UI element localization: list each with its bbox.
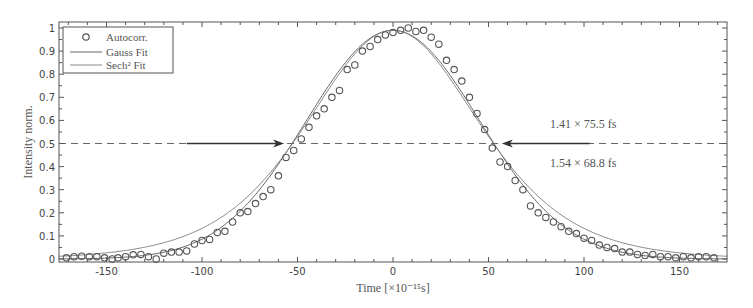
data-point: [459, 78, 465, 84]
data-point: [543, 214, 549, 220]
data-point: [329, 94, 335, 100]
data-point: [291, 147, 297, 153]
x-tick-label: -150: [95, 266, 118, 277]
y-tick-label: 0.1: [39, 231, 55, 242]
data-point: [283, 154, 289, 160]
data-point: [443, 57, 449, 63]
y-tick-label: 0.8: [39, 69, 55, 80]
data-point: [420, 27, 426, 33]
data-point: [306, 124, 312, 130]
y-tick-label: 1: [49, 23, 55, 34]
data-point: [252, 200, 258, 206]
data-point: [665, 254, 671, 260]
y-tick-label: 0.9: [39, 46, 55, 57]
data-point: [130, 252, 136, 258]
data-point: [512, 177, 518, 183]
data-point: [275, 173, 281, 179]
data-point: [313, 113, 319, 119]
data-point: [436, 41, 442, 47]
data-point: [184, 248, 190, 254]
autocorrelation-chart: -150-100-50050100150 00.10.20.30.40.50.6…: [0, 0, 753, 308]
data-point: [153, 256, 159, 262]
data-point: [520, 187, 526, 193]
svg-text:1.54 × 68.8 fs: 1.54 × 68.8 fs: [550, 156, 617, 170]
y-tick-label: 0.7: [39, 92, 55, 103]
data-point: [413, 28, 419, 34]
data-point: [206, 236, 212, 242]
data-point: [550, 219, 556, 225]
annotation-gauss: 1.41 × 75.5 fs: [550, 117, 617, 131]
data-point: [359, 48, 365, 54]
y-tick-label: 0.5: [39, 139, 55, 150]
x-tick-label: 50: [482, 266, 495, 277]
data-point: [428, 34, 434, 40]
y-tick-label: 0.6: [39, 115, 55, 126]
x-tick-label: -100: [191, 266, 214, 277]
x-tick-label: -50: [289, 266, 305, 277]
data-point: [367, 43, 373, 49]
data-point: [627, 249, 633, 255]
annotation-sech: 1.54 × 68.8 fs: [550, 156, 617, 170]
data-point: [497, 159, 503, 165]
svg-text:1.41 × 75.5 fs: 1.41 × 75.5 fs: [550, 117, 617, 131]
data-point: [466, 94, 472, 100]
data-point: [222, 228, 228, 234]
data-point: [405, 25, 411, 31]
data-point: [680, 254, 686, 260]
data-point: [268, 187, 274, 193]
data-point: [298, 136, 304, 142]
data-point: [321, 106, 327, 112]
data-point: [375, 36, 381, 42]
y-tick-label: 0: [49, 254, 55, 265]
legend-gauss: Gauss Fit: [106, 46, 148, 58]
y-tick-label: 0.2: [39, 208, 55, 219]
data-point: [382, 32, 388, 38]
data-point: [260, 193, 266, 199]
data-point: [451, 66, 457, 72]
data-point: [176, 249, 182, 255]
data-point: [352, 62, 358, 68]
y-tick-label: 0.4: [39, 162, 55, 173]
data-point: [489, 145, 495, 151]
data-point: [168, 249, 174, 255]
data-point: [527, 203, 533, 209]
legend-sech: Sech² Fit: [106, 59, 146, 71]
x-tick-label: 150: [670, 266, 689, 277]
data-point: [245, 208, 251, 214]
y-tick-label: 0.3: [39, 185, 55, 196]
data-point: [138, 251, 144, 257]
data-point: [336, 87, 342, 93]
x-tick-label: 0: [390, 266, 396, 277]
legend: Autocorr. Gauss Fit Sech² Fit: [63, 27, 173, 73]
legend-autocorr: Autocorr.: [106, 31, 148, 43]
y-axis-label: Intensity norm.: [21, 105, 35, 178]
data-point: [229, 219, 235, 225]
data-point: [161, 250, 167, 256]
data-point: [535, 210, 541, 216]
data-point: [344, 66, 350, 72]
data-point: [688, 255, 694, 261]
x-tick-label: 100: [574, 266, 593, 277]
x-axis-label: Time [×10⁻¹⁵s]: [356, 281, 429, 295]
data-point: [94, 254, 100, 260]
